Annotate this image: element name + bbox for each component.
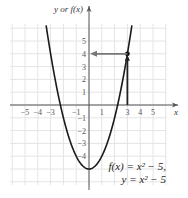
x-tick-label: −4 <box>34 108 43 117</box>
x-tick-label: 1 <box>100 108 104 117</box>
arrow-left-icon <box>90 51 97 57</box>
equation-label-f: f(x) = x² − 5, <box>108 160 166 173</box>
equation-label-y: y = x² − 5 <box>121 173 167 185</box>
x-axis-label: x <box>173 107 178 117</box>
x-tick-label: 3 <box>125 108 129 117</box>
y-tick-label: −3 <box>77 139 86 148</box>
y-tick-label: −2 <box>77 127 86 136</box>
x-tick-label: −5 <box>21 108 30 117</box>
y-tick-label: −1 <box>77 114 86 123</box>
x-tick-label: 5 <box>151 108 155 117</box>
y-tick-label: 4 <box>82 50 86 59</box>
arrow-up-icon <box>125 55 130 61</box>
y-tick-label: 5 <box>82 37 86 46</box>
tick-labels: −5−4−3−1134554321−1−2−3−4 <box>21 37 155 161</box>
x-tick-label: 4 <box>138 108 142 117</box>
function-graph: −5−4−3−1134554321−1−2−3−4 y or f(x) x f(… <box>0 0 188 198</box>
y-tick-label: 3 <box>82 63 86 72</box>
y-tick-label: 1 <box>82 88 86 97</box>
x-tick-label: −3 <box>46 108 55 117</box>
y-tick-label: 2 <box>82 75 86 84</box>
y-axis-label: y or f(x) <box>53 4 83 14</box>
